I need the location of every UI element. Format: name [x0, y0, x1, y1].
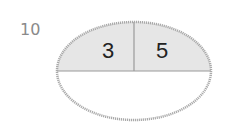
top-left-value: 3: [102, 38, 114, 63]
number-bond-diagram: 3 5: [0, 0, 229, 126]
top-right-value: 5: [156, 38, 168, 63]
